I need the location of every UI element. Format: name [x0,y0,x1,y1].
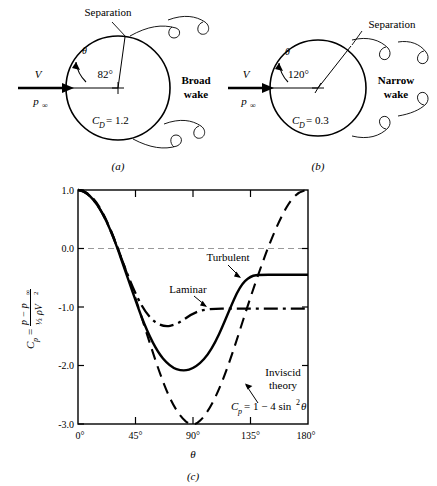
flow-pressure-subscript-a: ∞ [42,101,48,110]
x-tick-label-1: 45° [129,430,143,441]
y-tick-label-2: -1.0 [58,302,74,313]
flow-pressure-subscript-b: ∞ [250,101,256,110]
annotation-turbulent-label: Turbulent [207,251,250,263]
y-axis-title-group: C p = p − p ∞ ½ ρV 2 [18,289,44,349]
theta-label-b: θ [285,46,290,57]
panel-b: V p ∞ θ 120° Separation Narrow wake C [228,18,428,173]
separation-label-a: Separation [84,6,132,18]
figure-container: V p ∞ θ 82° Separation Br [0,0,437,486]
annotation-inviscid-line1: Inviscid [265,366,301,378]
x-tick-label-0: 0° [76,430,85,441]
x-axis-title: θ [190,448,196,460]
figure-svg: V p ∞ θ 82° Separation Br [0,0,437,486]
y-axis-cp-subscript: p [31,338,40,343]
separation-leader-a [112,22,126,37]
series-laminar [78,190,308,326]
annotation-inviscid-line2: theory [269,379,298,391]
annotation-laminar-label: Laminar [169,283,207,295]
panel-caption-a: (a) [112,160,125,173]
annotation-inviscid-arrowhead [245,384,252,390]
drag-coefficient-value-b: = 0.3 [306,114,329,126]
y-tick-label-0: 1.0 [62,185,75,196]
series-turbulent [78,190,308,370]
y-axis-denominator-half: ½ [34,318,44,325]
panel-caption-c: (c) [187,470,200,483]
separation-radius-a [118,37,125,88]
flow-pressure-label-b: p [240,95,247,107]
flow-velocity-label-a: V [35,68,43,80]
y-axis-ticks [78,190,84,424]
separation-leader-b [352,31,362,45]
x-tick-label-4: 180° [297,430,316,441]
formula-exponent: 2 [296,398,300,407]
flow-arrow-a [18,83,74,93]
theta-label-a: θ [82,45,87,56]
flow-pressure-label-a: p [32,95,39,107]
wake-label-b-line2: wake [384,88,409,100]
separation-angle-label-a: 82° [98,68,113,80]
formula-body: = 1 − 4 sin [244,400,292,412]
separation-label-b: Separation [368,18,416,30]
x-tick-label-3: 135° [241,430,260,441]
panel-caption-b: (b) [312,160,325,173]
y-axis-equals: = [24,329,36,335]
flow-velocity-label-b: V [243,68,251,80]
formula-cp-subscript: p [237,407,242,416]
wake-label-b-line1: Narrow [378,74,415,86]
y-axis-numerator: p − p [18,303,29,326]
wake-label-a-line1: Broad [181,74,210,86]
y-tick-label-3: -2.0 [58,360,74,371]
panel-a: V p ∞ θ 82° Separation Br [18,6,211,173]
formula-theta: θ [301,400,307,412]
y-axis-denominator-rest: ρV [33,302,44,316]
y-tick-label-4: -3.0 [58,419,74,430]
x-tick-label-2: 90° [186,430,200,441]
separation-radius-b [318,46,351,88]
separation-angle-label-b: 120° [288,68,309,80]
y-tick-label-1: 0.0 [62,243,75,254]
y-axis-denominator-exponent: 2 [32,291,40,295]
drag-coefficient-subscript-b: D [298,121,305,130]
drag-coefficient-value-a: = 1.2 [106,114,129,126]
drag-coefficient-subscript-a: D [98,121,105,130]
wake-label-a-line2: wake [184,88,209,100]
inviscid-formula: C p = 1 − 4 sin 2 θ [231,398,307,416]
flow-arrow-b [228,83,274,93]
panel-c-plot: 1.0 0.0 -1.0 -2.0 -3.0 0° 45° 90° 135° 1… [18,185,316,483]
